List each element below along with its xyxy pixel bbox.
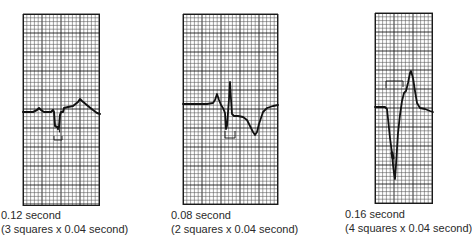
- caption-strip-3: 0.16 second (4 squares x 0.04 second): [345, 207, 472, 235]
- duration-label-3: 0.16 second: [345, 207, 472, 221]
- ecg-strip-2: [183, 14, 278, 205]
- duration-label-2: 0.08 second: [171, 208, 298, 222]
- ecg-strip-3: [375, 13, 433, 204]
- calculation-label-1: (3 squares x 0.04 second): [1, 222, 128, 236]
- ecg-grid-1: [23, 14, 100, 206]
- calculation-label-3: (4 squares x 0.04 second): [345, 221, 472, 235]
- ecg-grid-2: [183, 14, 278, 205]
- ecg-strip-1: [23, 14, 100, 206]
- calculation-label-2: (2 squares x 0.04 second): [171, 222, 298, 236]
- duration-label-1: 0.12 second: [1, 208, 128, 222]
- caption-strip-1: 0.12 second (3 squares x 0.04 second): [1, 208, 128, 236]
- ecg-grid-3: [375, 13, 433, 204]
- caption-strip-2: 0.08 second (2 squares x 0.04 second): [171, 208, 298, 236]
